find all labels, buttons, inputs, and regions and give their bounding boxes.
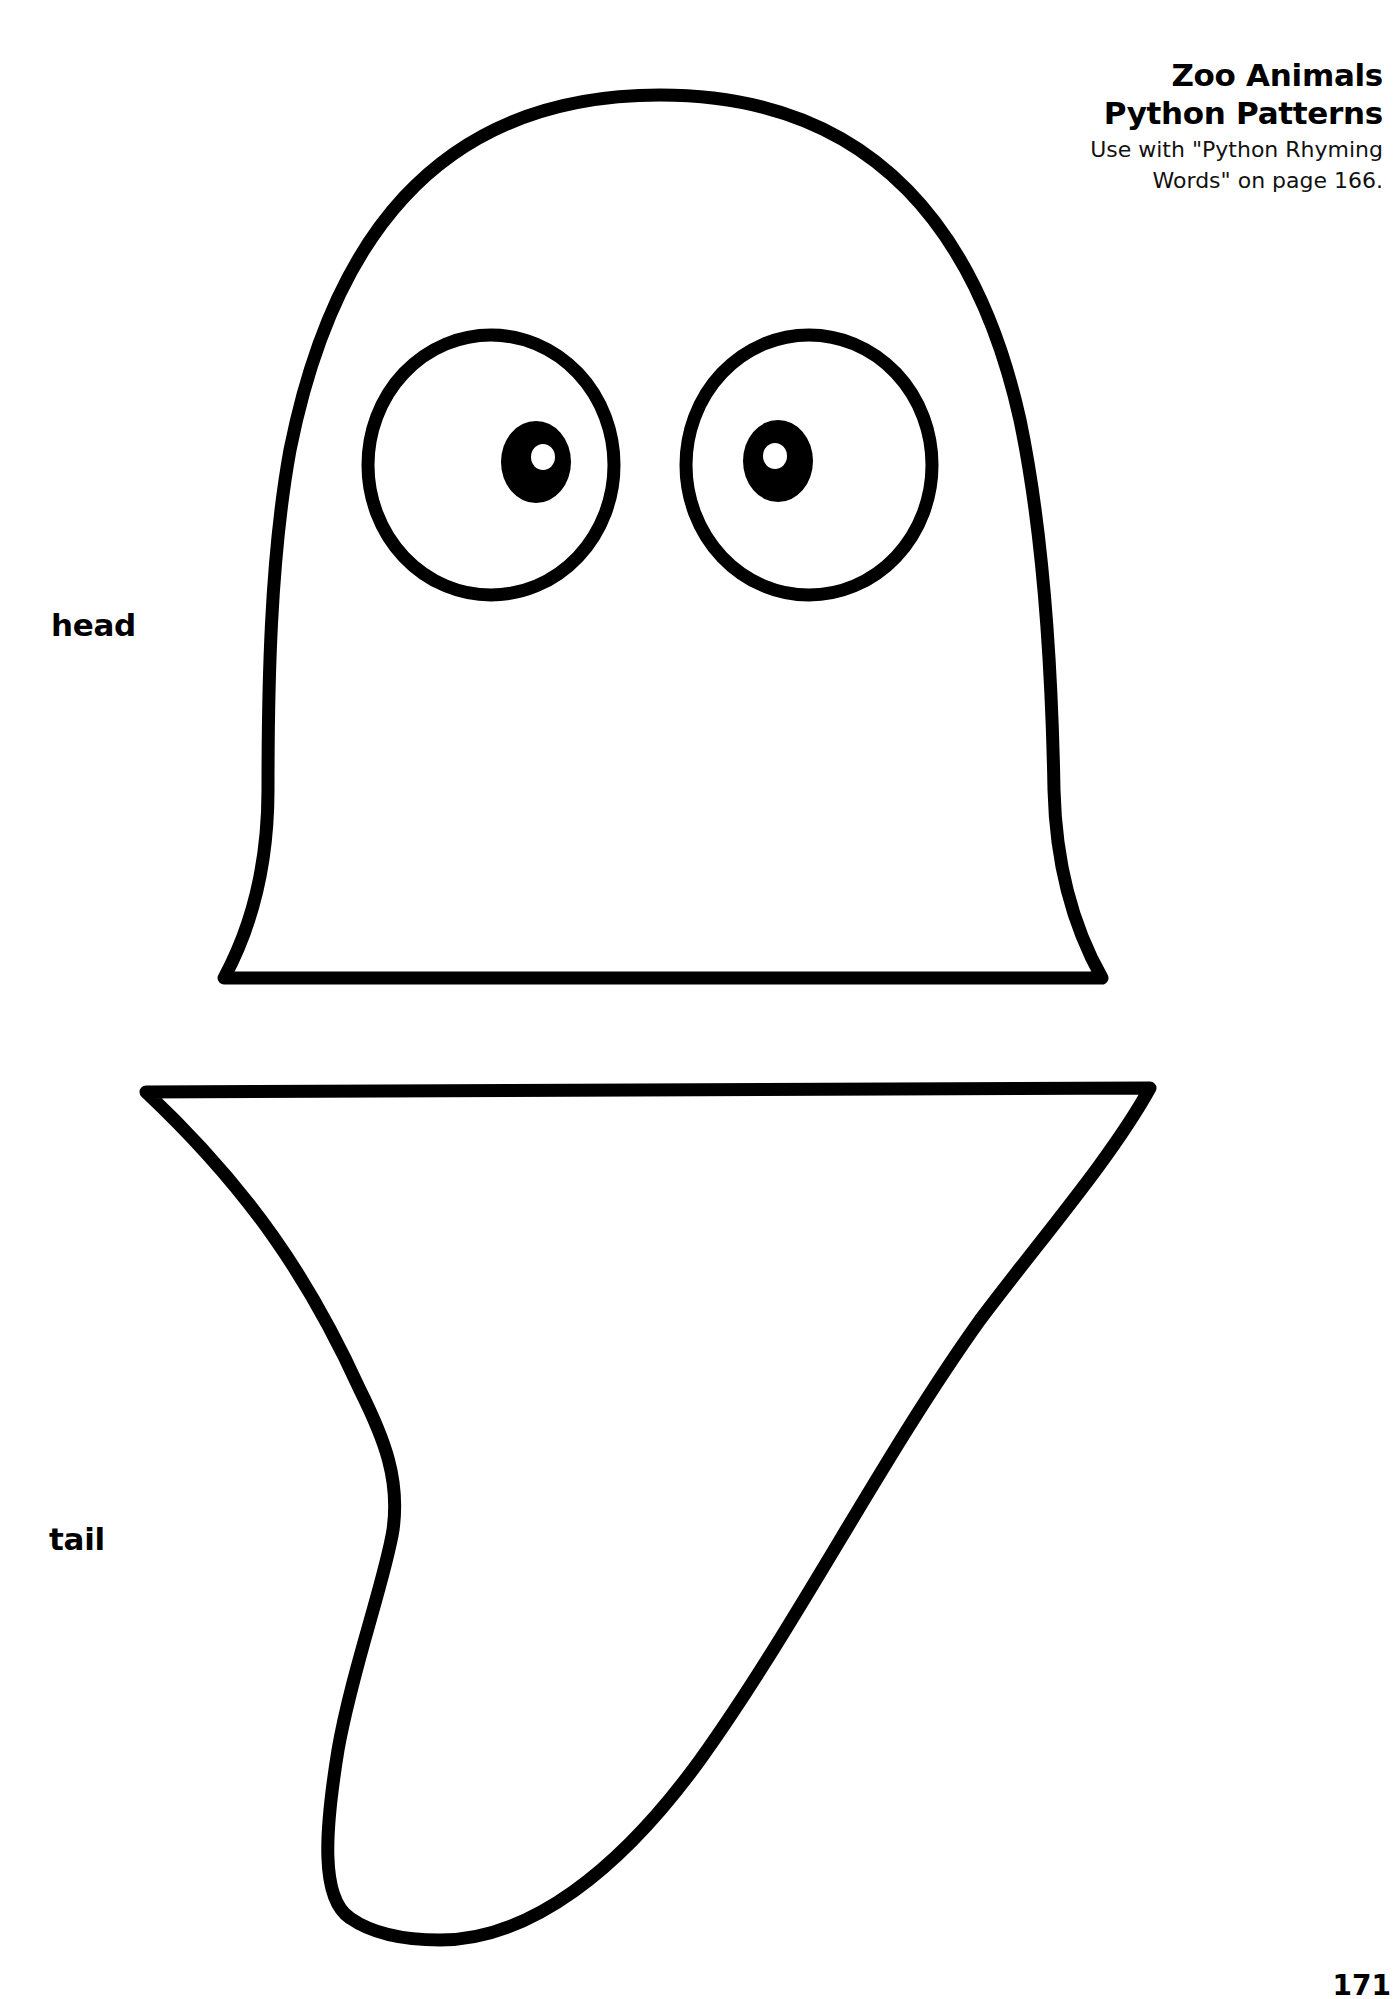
eye-pupils — [501, 420, 813, 503]
head-pattern — [224, 95, 1102, 978]
right-pupil-highlight — [763, 443, 787, 469]
tail-pattern — [146, 1088, 1150, 1940]
page-number: 171 — [1333, 1972, 1391, 1999]
left-eye-outline — [368, 335, 614, 595]
head-label: head — [51, 607, 136, 643]
tail-outline — [146, 1088, 1150, 1940]
left-pupil-highlight — [531, 444, 555, 470]
tail-label: tail — [49, 1521, 105, 1557]
head-outline — [224, 95, 1102, 978]
